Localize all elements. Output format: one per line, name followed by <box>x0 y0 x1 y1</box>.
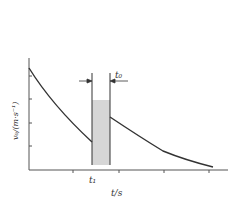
y-axis-label: v₀/(m·s⁻¹) <box>11 102 20 140</box>
shaded-interval <box>92 100 110 165</box>
t0-label: t₀ <box>115 70 123 80</box>
curve-segment-1 <box>29 68 92 142</box>
x-axis-label: t/s <box>111 188 123 198</box>
t1-label: t₁ <box>89 175 96 185</box>
chart-canvas: t₀ t₁ t/s v₀/(m·s⁻¹) <box>0 0 234 207</box>
curve-segment-2 <box>110 117 213 167</box>
